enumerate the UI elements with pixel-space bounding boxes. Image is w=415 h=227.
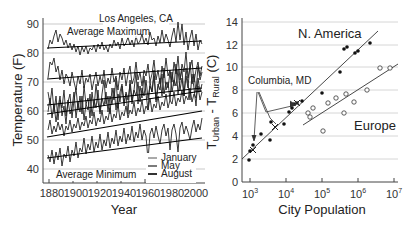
- right-x-ticks: 103 104 105 106 107: [242, 187, 402, 200]
- right-gridlines: [242, 22, 398, 159]
- svg-text:105: 105: [314, 187, 330, 200]
- svg-text:4: 4: [232, 130, 238, 142]
- left-y-label: Temperature (F): [10, 53, 25, 146]
- svg-text:1980: 1980: [160, 187, 184, 199]
- right-y-label: TUrban - TRural (C): [204, 55, 221, 150]
- svg-text:80: 80: [27, 47, 39, 59]
- label-europe: Europe: [354, 118, 396, 133]
- svg-text:14: 14: [226, 16, 238, 28]
- svg-text:10: 10: [226, 61, 238, 73]
- svg-text:106: 106: [350, 187, 366, 200]
- svg-text:50: 50: [27, 134, 39, 146]
- chart-title-los-angeles: Los Angeles, CA: [99, 13, 173, 24]
- annotation-average-maximum: Average Maximum: [67, 26, 150, 37]
- figure: 90 80 70 60 50 40 1880 1900 1920 1940 19…: [0, 0, 415, 227]
- label-north-america: N. America: [298, 26, 362, 41]
- svg-text:1940: 1940: [112, 187, 136, 199]
- svg-text:1920: 1920: [88, 187, 112, 199]
- columbia-arrows: [252, 92, 296, 141]
- svg-text:0: 0: [232, 176, 238, 188]
- svg-text:6: 6: [232, 107, 238, 119]
- svg-text:1900: 1900: [64, 187, 88, 199]
- left-x-ticks: 1880 1900 1920 1940 1960 1980 2000: [40, 187, 208, 199]
- svg-text:107: 107: [386, 187, 402, 200]
- left-y-ticks: 90 80 70 60 50 40: [27, 18, 39, 175]
- svg-text:90: 90: [27, 18, 39, 30]
- svg-text:104: 104: [278, 187, 294, 200]
- svg-text:70: 70: [27, 76, 39, 88]
- annotation-average-minimum: Average Minimum: [56, 169, 136, 180]
- svg-text:1960: 1960: [136, 187, 160, 199]
- left-chart-temperature: 90 80 70 60 50 40 1880 1900 1920 1940 19…: [10, 13, 208, 217]
- svg-text:12: 12: [226, 39, 238, 51]
- right-y-ticks: 0 2 4 6 8 10 12 14: [226, 16, 238, 188]
- left-x-label: Year: [111, 202, 138, 217]
- legend-august: August: [161, 168, 192, 179]
- annotation-columbia-md: Columbia, MD: [248, 75, 311, 86]
- svg-text:8: 8: [232, 84, 238, 96]
- svg-text:60: 60: [27, 105, 39, 117]
- svg-text:2: 2: [232, 153, 238, 165]
- left-legend: January May August: [146, 152, 197, 183]
- right-x-label: City Population: [278, 202, 365, 217]
- svg-text:2000: 2000: [184, 187, 208, 199]
- right-chart-heat-island: 0 2 4 6 8 10 12 14 103 104 105 106 107 C…: [204, 16, 402, 217]
- trend-europe: [303, 64, 398, 125]
- svg-text:40: 40: [27, 163, 39, 175]
- svg-text:1880: 1880: [40, 187, 64, 199]
- svg-text:103: 103: [242, 187, 258, 200]
- right-x-tickmarks: [250, 178, 394, 182]
